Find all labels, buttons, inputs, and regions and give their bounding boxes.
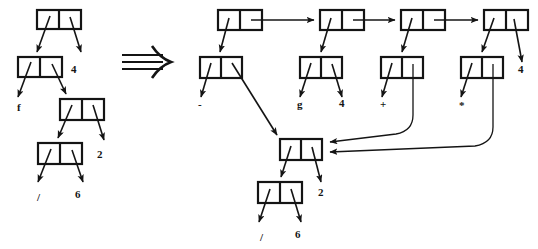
atom-label-6-left: 6 — [75, 188, 81, 200]
atom-label-minus: - — [198, 98, 202, 110]
cons-cell-R-shared-2 — [258, 182, 302, 203]
atom-label-6-right: 6 — [295, 228, 301, 240]
atom-label-g: g — [297, 98, 303, 110]
right-cons-graph: - g 4 + * 4 2 / 6 — [198, 10, 528, 243]
atom-label-4-branch2: 4 — [339, 97, 345, 109]
atom-label-slash-left: / — [36, 191, 41, 203]
atom-label-4-spine4: 4 — [518, 63, 524, 75]
pointer-branch1-cdr-to-shared — [232, 63, 277, 135]
atom-label-f: f — [17, 101, 21, 113]
cons-cell-R-shared-1 — [280, 139, 322, 160]
cons-cell-diagram: 4 f 2 / 6 — [0, 0, 538, 249]
atom-label-2-left: 2 — [97, 148, 103, 160]
left-cons-tree: 4 f 2 / 6 — [17, 10, 104, 203]
cons-cell-R-branch-3 — [381, 57, 423, 78]
atom-label-slash-right: / — [259, 231, 264, 243]
cons-cell-R-branch-4 — [461, 57, 503, 78]
atom-label-plus: + — [380, 98, 386, 110]
atom-label-2-right: 2 — [318, 186, 324, 198]
cons-cell-L2 — [18, 57, 62, 77]
cons-cell-L1 — [37, 10, 81, 29]
atom-label-4-left: 4 — [71, 63, 77, 75]
figure-canvas: 4 f 2 / 6 — [0, 0, 538, 249]
atom-label-star: * — [459, 99, 465, 111]
double-right-arrow-icon — [122, 46, 171, 78]
